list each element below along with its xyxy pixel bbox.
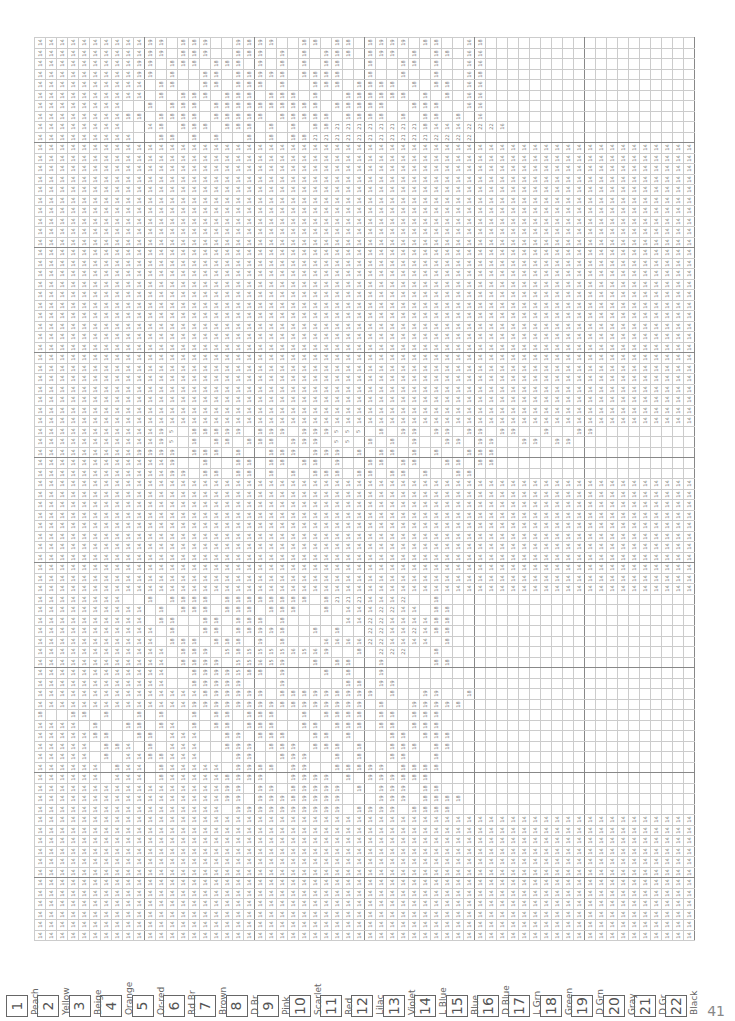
grid-cell: 14: [464, 395, 475, 406]
grid-cell: [618, 678, 629, 689]
grid-cell: 19: [266, 783, 277, 794]
grid-cell: 19: [288, 773, 299, 784]
grid-cell: [574, 437, 585, 448]
grid-cell: 22: [475, 122, 486, 133]
grid-cell: 14: [46, 647, 57, 658]
grid-cell: [508, 458, 519, 469]
grid-cell: [200, 101, 211, 112]
grid-cell: 14: [442, 500, 453, 511]
grid-cell: [310, 752, 321, 763]
grid-cell: 5: [167, 426, 178, 437]
grid-cell: 14: [112, 311, 123, 322]
grid-cell: 14: [563, 216, 574, 227]
grid-cell: [618, 689, 629, 700]
grid-cell: 19: [310, 689, 321, 700]
grid-cell: 21: [387, 132, 398, 143]
grid-cell: 14: [453, 153, 464, 164]
grid-cell: 14: [453, 143, 464, 154]
grid-cell: 14: [145, 500, 156, 511]
grid-cell: 14: [35, 489, 46, 500]
grid-cell: 14: [134, 762, 145, 773]
grid-cell: 14: [596, 878, 607, 889]
grid-cell: 14: [552, 216, 563, 227]
grid-cell: 14: [343, 531, 354, 542]
grid-cell: [189, 615, 200, 626]
grid-cell: 14: [530, 290, 541, 301]
grid-row: 1414141414141414141414141414141414141414…: [35, 384, 695, 395]
grid-cell: [651, 426, 662, 437]
grid-cell: 14: [255, 195, 266, 206]
grid-cell: 14: [123, 405, 134, 416]
grid-cell: 18: [420, 804, 431, 815]
grid-cell: 14: [618, 510, 629, 521]
grid-cell: [530, 59, 541, 70]
grid-cell: 14: [79, 468, 90, 479]
grid-cell: 14: [398, 332, 409, 343]
grid-cell: 14: [145, 836, 156, 847]
grid-cell: [431, 437, 442, 448]
grid-cell: [640, 804, 651, 815]
legend-number: 18: [543, 997, 559, 1015]
grid-cell: 14: [156, 542, 167, 553]
grid-cell: 14: [618, 500, 629, 511]
grid-cell: 19: [310, 804, 321, 815]
grid-cell: 14: [519, 489, 530, 500]
grid-cell: 14: [574, 878, 585, 889]
grid-cell: [453, 38, 464, 49]
grid-cell: [574, 720, 585, 731]
grid-cell: 14: [145, 300, 156, 311]
grid-cell: 14: [673, 899, 684, 910]
grid-cell: [673, 689, 684, 700]
grid-cell: 19: [321, 794, 332, 805]
grid-cell: 14: [134, 867, 145, 878]
grid-cell: [629, 69, 640, 80]
grid-cell: 14: [508, 542, 519, 553]
grid-cell: 14: [310, 342, 321, 353]
legend-number: 8: [229, 1002, 245, 1011]
grid-cell: 14: [651, 500, 662, 511]
grid-cell: 14: [376, 899, 387, 910]
grid-cell: [508, 678, 519, 689]
grid-row: 1414141414141414141418181818181818181414…: [35, 615, 695, 626]
grid-cell: [508, 69, 519, 80]
grid-cell: [464, 804, 475, 815]
grid-cell: 14: [211, 836, 222, 847]
grid-cell: 14: [299, 384, 310, 395]
grid-cell: 18: [431, 783, 442, 794]
grid-cell: 14: [112, 552, 123, 563]
grid-cell: 14: [156, 321, 167, 332]
grid-cell: 14: [530, 143, 541, 154]
grid-cell: 14: [574, 500, 585, 511]
grid-cell: 14: [321, 930, 332, 941]
grid-cell: 14: [343, 258, 354, 269]
grid-cell: [398, 447, 409, 458]
grid-cell: 14: [431, 395, 442, 406]
grid-cell: 14: [640, 206, 651, 217]
grid-cell: [222, 762, 233, 773]
grid-cell: 14: [618, 573, 629, 584]
grid-cell: 14: [508, 185, 519, 196]
grid-cell: 14: [178, 143, 189, 154]
grid-cell: 14: [233, 930, 244, 941]
grid-cell: 14: [222, 290, 233, 301]
grid-cell: 14: [79, 489, 90, 500]
grid-cell: 18: [453, 699, 464, 710]
grid-cell: 14: [321, 878, 332, 889]
grid-cell: [541, 773, 552, 784]
grid-cell: 14: [684, 563, 695, 574]
grid-cell: 14: [189, 804, 200, 815]
grid-cell: 14: [563, 279, 574, 290]
grid-cell: 14: [90, 111, 101, 122]
grid-cell: 14: [596, 489, 607, 500]
grid-cell: 14: [101, 836, 112, 847]
grid-cell: 14: [156, 153, 167, 164]
grid-cell: 14: [68, 668, 79, 679]
grid-cell: 14: [475, 857, 486, 868]
grid-cell: 14: [464, 384, 475, 395]
grid-cell: 14: [585, 888, 596, 899]
grid-cell: 18: [299, 48, 310, 59]
grid-cell: [519, 762, 530, 773]
grid-cell: 19: [321, 48, 332, 59]
grid-cell: 14: [101, 552, 112, 563]
grid-cell: 14: [57, 437, 68, 448]
